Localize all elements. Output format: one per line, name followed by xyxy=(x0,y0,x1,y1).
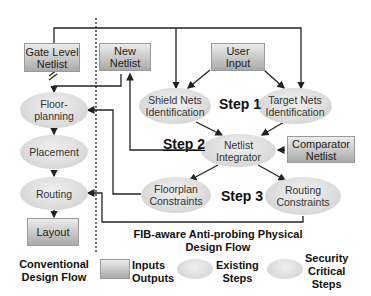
routing-constraints-node: Routing Constraints xyxy=(265,177,341,215)
floorplan-constraints-node: Floorplan Constraints xyxy=(141,177,211,213)
step-1-label: Step 1 xyxy=(219,96,261,112)
fib-flow-caption: FIB-aware Anti-probing Physical Design F… xyxy=(118,228,318,254)
floorplanning-node: Floor- planning xyxy=(20,92,88,128)
legend-security-ellipse xyxy=(267,259,303,279)
conventional-flow-caption: Conventional Design Flow xyxy=(14,258,94,284)
legend-existing-steps: Existing Steps xyxy=(216,259,259,285)
layout-box: Layout xyxy=(27,218,79,246)
routing-node: Routing xyxy=(20,177,88,210)
legend-inputs-outputs: Inputs Outputs xyxy=(132,259,174,285)
legend-box-swatch xyxy=(100,259,130,279)
user-input-box: User Input xyxy=(211,43,265,71)
legend-existing-ellipse xyxy=(177,259,213,279)
legend-security-critical-steps: Security Critical Steps xyxy=(305,252,348,291)
gate-level-netlist-box: Gate Level Netlist xyxy=(24,43,80,72)
step-2-label: Step 2 xyxy=(163,136,205,152)
new-netlist-box: New Netlist xyxy=(99,43,151,71)
target-nets-identification-node: Target Nets Identification xyxy=(258,88,332,124)
shield-nets-identification-node: Shield Nets Identification xyxy=(139,88,211,124)
step-3-label: Step 3 xyxy=(221,188,263,204)
placement-node: Placement xyxy=(20,135,88,169)
comparator-netlist-box: Comparator Netlist xyxy=(287,136,355,163)
netlist-integrator-node: Netlist Integrator xyxy=(201,134,276,167)
